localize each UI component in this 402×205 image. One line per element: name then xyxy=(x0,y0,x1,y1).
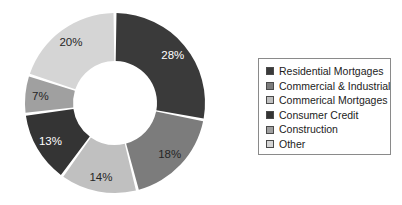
slice-value-label: 20% xyxy=(59,36,82,48)
donut-chart: 28%18%14%13%7%20% xyxy=(0,0,230,205)
legend-item-label: Other xyxy=(279,139,305,150)
legend-item-label: Consumer Credit xyxy=(279,110,358,121)
legend-swatch-icon xyxy=(266,82,274,90)
legend-item-label: Residential Mortgages xyxy=(279,66,383,77)
legend-swatch-icon xyxy=(266,96,274,104)
donut-slice[interactable] xyxy=(116,13,205,118)
legend-item-label: Commercial & Industrial xyxy=(279,81,390,92)
legend-item[interactable]: Commerical Mortgages xyxy=(266,93,384,108)
legend-swatch-icon xyxy=(266,67,274,75)
slice-value-label: 28% xyxy=(161,49,184,61)
donut-slices xyxy=(25,13,205,193)
chart-screenshot: 28%18%14%13%7%20% Residential MortgagesC… xyxy=(0,0,402,205)
legend-item[interactable]: Other xyxy=(266,137,384,152)
legend-swatch-icon xyxy=(266,126,274,134)
chart-legend: Residential MortgagesCommercial & Indust… xyxy=(258,58,391,155)
legend-item[interactable]: Construction xyxy=(266,122,384,137)
legend-item-label: Construction xyxy=(279,124,338,135)
slice-value-label: 14% xyxy=(89,171,112,183)
slice-value-label: 13% xyxy=(39,135,62,147)
legend-swatch-icon xyxy=(266,111,274,119)
legend-item[interactable]: Commercial & Industrial xyxy=(266,79,384,94)
legend-swatch-icon xyxy=(266,140,274,148)
slice-value-label: 18% xyxy=(158,148,181,160)
slice-value-label: 7% xyxy=(32,90,49,102)
legend-item[interactable]: Residential Mortgages xyxy=(266,64,384,79)
legend-item-label: Commerical Mortgages xyxy=(279,95,388,106)
legend-item[interactable]: Consumer Credit xyxy=(266,108,384,123)
donut-slice[interactable] xyxy=(30,13,114,89)
